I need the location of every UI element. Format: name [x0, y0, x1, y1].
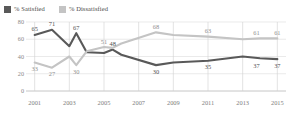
data-series-lines: [35, 30, 278, 68]
x-axis-tick: 2013: [236, 99, 249, 106]
data-label-dissatisfied: 63: [205, 27, 211, 34]
y-axis-tick: 40: [18, 53, 24, 60]
square-swatch-icon: [4, 6, 11, 13]
data-label-dissatisfied: 61: [274, 29, 280, 36]
x-axis-tick: 2007: [132, 99, 146, 106]
data-label-satisfied: 71: [49, 20, 55, 27]
data-label-satisfied: 30: [153, 68, 159, 75]
y-axis-tick: 60: [18, 35, 24, 42]
data-label-dissatisfied: 33: [31, 65, 37, 72]
y-axis-tick: 0: [21, 87, 24, 94]
chart-container: % Satisfied % Dissatisfied 020406080 200…: [0, 0, 291, 114]
x-axis-tick: 2009: [167, 99, 180, 106]
data-point-labels: 65716748303537373327305168636161: [31, 20, 281, 77]
legend-label-satisfied: % Satisfied: [14, 5, 45, 13]
data-label-satisfied: 48: [109, 40, 115, 47]
x-axis-tick: 2005: [98, 99, 111, 106]
x-axis-tick: 2001: [28, 99, 41, 106]
x-axis-tick: 2015: [271, 99, 284, 106]
data-label-satisfied: 35: [205, 63, 211, 70]
legend-item-dissatisfied: % Dissatisfied: [59, 5, 108, 13]
data-label-satisfied: 65: [31, 25, 37, 32]
plot-area: 020406080 200120032005200720092011201320…: [0, 16, 291, 114]
data-label-satisfied: 37: [253, 62, 260, 69]
data-label-satisfied: 37: [274, 62, 281, 69]
x-axis-tick-labels: 20012003200520072009201120132015: [28, 99, 283, 106]
legend-item-satisfied: % Satisfied: [4, 5, 45, 13]
chart-legend: % Satisfied % Dissatisfied: [4, 2, 108, 16]
y-axis-tick: 80: [18, 18, 24, 25]
legend-label-dissatisfied: % Dissatisfied: [69, 5, 108, 13]
data-label-dissatisfied: 27: [49, 70, 56, 77]
x-axis-tick: 2011: [202, 99, 215, 106]
square-swatch-icon: [59, 6, 66, 13]
data-label-dissatisfied: 51: [101, 38, 107, 45]
data-label-dissatisfied: 30: [73, 68, 79, 75]
x-axis-tick: 2003: [63, 99, 76, 106]
y-axis-tick-labels: 020406080: [18, 18, 24, 94]
data-label-dissatisfied: 68: [153, 23, 159, 30]
series-line-dissatisfied: [35, 32, 278, 67]
data-label-dissatisfied: 61: [253, 29, 259, 36]
y-axis-tick: 20: [18, 70, 24, 77]
line-chart-svg: 020406080 200120032005200720092011201320…: [0, 16, 291, 114]
data-label-satisfied: 67: [73, 24, 80, 31]
